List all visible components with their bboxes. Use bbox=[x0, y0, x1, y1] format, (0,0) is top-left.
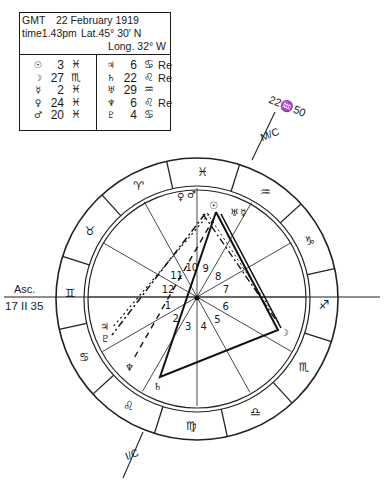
house-number: 6 bbox=[223, 301, 229, 312]
positions-left: ☉3♓☽27♏☿2♓♀24♓♂20♓ bbox=[20, 55, 97, 131]
pluto-glyph: ♇ bbox=[101, 333, 110, 344]
pluto-icon: ♇ bbox=[105, 109, 117, 122]
gmt-label: GMT bbox=[22, 14, 56, 27]
sign-icon: ♓ bbox=[64, 59, 85, 72]
chart-date: 22 February 1919 bbox=[56, 14, 139, 27]
neptune-icon: ♆ bbox=[105, 97, 117, 110]
sign-boundary bbox=[307, 269, 334, 275]
house-number: 5 bbox=[214, 314, 220, 325]
degree-value: 20 bbox=[44, 109, 64, 122]
chart-time: 1.43pm bbox=[42, 27, 77, 40]
zodiac-sign-icon: ♐ bbox=[318, 298, 329, 312]
house-number: 4 bbox=[201, 321, 207, 332]
zodiac-sign-icon: ♋ bbox=[79, 350, 90, 364]
retrograde-flag: Re bbox=[158, 97, 172, 110]
sign-boundary bbox=[59, 323, 86, 329]
zodiac-sign-icon: ♍ bbox=[186, 419, 197, 433]
sign-boundary bbox=[154, 407, 162, 434]
house-number: 7 bbox=[223, 284, 229, 295]
jupiter-glyph: ♃ bbox=[100, 321, 109, 332]
zodiac-sign-icon: ♉ bbox=[85, 224, 96, 238]
zodiac-sign-icon: ♎ bbox=[250, 405, 261, 419]
sign-boundary bbox=[221, 409, 227, 436]
degree-value: 3 bbox=[44, 59, 64, 72]
aspect-line-sun-moon bbox=[221, 214, 281, 328]
positions-right: ♃6♋Re♄22♌Re♅29♒♆6♌Re♇4♋ bbox=[97, 55, 174, 131]
moon-glyph: ☽ bbox=[280, 327, 289, 338]
position-row-uranus: ♅29♒ bbox=[105, 84, 172, 97]
neptune-glyph: ♆ bbox=[125, 362, 134, 373]
house-number: 3 bbox=[185, 321, 191, 332]
sign-boundary bbox=[231, 165, 239, 192]
sign-icon: ♒ bbox=[137, 84, 158, 97]
sun-icon: ☉ bbox=[32, 59, 44, 72]
position-row-jupiter: ♃6♋Re bbox=[105, 59, 172, 72]
house-number: 1 bbox=[165, 300, 171, 311]
house-number: 8 bbox=[215, 271, 221, 282]
aspect-line-venus-pluto bbox=[112, 214, 205, 335]
zodiac-sign-icon: ♈ bbox=[133, 179, 144, 193]
moon-icon: ☽ bbox=[32, 72, 44, 85]
retrograde-flag: Re bbox=[158, 72, 172, 85]
saturn-icon: ♄ bbox=[105, 72, 117, 85]
longitude: Long. 32° W bbox=[108, 40, 166, 53]
zodiac-sign-icon: ♊ bbox=[65, 286, 76, 300]
saturn-glyph: ♄ bbox=[153, 381, 162, 392]
zodiac-sign-icon: ♏ bbox=[299, 360, 310, 374]
sign-icon: ♓ bbox=[64, 109, 85, 122]
uranus-glyph: ♅ bbox=[230, 207, 239, 218]
position-row-mercury: ☿2♓ bbox=[32, 84, 94, 97]
position-row-pluto: ♇4♋ bbox=[105, 109, 172, 122]
degree-value: 4 bbox=[117, 109, 137, 122]
mercury-icon: ☿ bbox=[32, 84, 44, 97]
zodiac-sign-icon: ♑ bbox=[304, 234, 315, 248]
sign-boundary bbox=[167, 161, 173, 188]
retrograde-flag: Re bbox=[158, 59, 172, 72]
house-number: 9 bbox=[203, 263, 209, 274]
zodiac-sign-icon: ♌ bbox=[123, 399, 134, 413]
asc-label: Asc. bbox=[14, 283, 35, 295]
sign-boundary bbox=[273, 382, 292, 403]
sign-boundary bbox=[102, 195, 121, 216]
mars-glyph: ♂ bbox=[187, 189, 196, 200]
chart-header: GMT 22 February 1919 time 1.43pm Lat.45°… bbox=[20, 13, 170, 55]
mars-icon: ♂ bbox=[32, 109, 44, 122]
time-label: time bbox=[22, 27, 42, 40]
aspect-lines bbox=[112, 212, 281, 377]
uranus-icon: ♅ bbox=[105, 84, 117, 97]
mercury-glyph: ☿ bbox=[240, 207, 246, 218]
aspect-line-mars-moon bbox=[207, 213, 279, 322]
jupiter-icon: ♃ bbox=[105, 59, 117, 72]
asc-value: 17 II 35 bbox=[5, 300, 43, 312]
position-row-saturn: ♄22♌Re bbox=[105, 72, 172, 85]
venus-icon: ♀ bbox=[32, 97, 44, 110]
degree-value: 29 bbox=[117, 84, 137, 97]
sun-glyph: ☉ bbox=[209, 200, 218, 211]
venus-glyph: ♀ bbox=[177, 191, 184, 202]
sign-boundary bbox=[93, 375, 114, 394]
zodiac-sign-icon: ♒ bbox=[260, 185, 271, 199]
zodiac-sign-icon: ♓ bbox=[197, 165, 208, 179]
position-row-neptune: ♆6♌Re bbox=[105, 97, 172, 110]
sign-icon: ♋ bbox=[137, 109, 158, 122]
sign-boundary bbox=[305, 333, 332, 341]
degree-value: 6 bbox=[117, 59, 137, 72]
latitude: Lat.45° 30′ N bbox=[81, 27, 141, 40]
position-row-mars: ♂20♓ bbox=[32, 109, 94, 122]
sign-icon: ♓ bbox=[64, 84, 85, 97]
chart-info-box: GMT 22 February 1919 time 1.43pm Lat.45°… bbox=[19, 12, 171, 131]
chart-center bbox=[195, 296, 200, 301]
degree-value: 2 bbox=[44, 84, 64, 97]
aspect-triangle bbox=[160, 212, 278, 377]
position-row-sun: ☉3♓ bbox=[32, 59, 94, 72]
sign-icon: ♋ bbox=[137, 59, 158, 72]
sign-boundary bbox=[63, 256, 90, 264]
sign-boundary bbox=[280, 204, 301, 223]
